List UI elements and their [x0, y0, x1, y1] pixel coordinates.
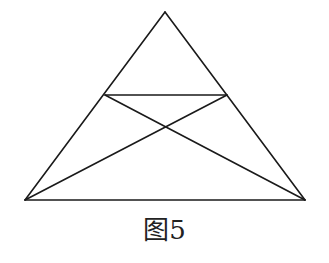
side-left [25, 12, 165, 200]
diagonal-1 [105, 95, 305, 200]
figure-caption: 图5 [0, 214, 329, 246]
diagonal-2 [25, 95, 227, 200]
side-right [165, 12, 305, 200]
